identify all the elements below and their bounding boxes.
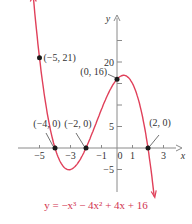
x-tick-label: 1: [130, 150, 135, 161]
data-point: [115, 77, 120, 82]
curve: [30, 0, 156, 197]
point-label: (−5, 21): [44, 52, 76, 64]
y-tick-label: −5: [103, 164, 114, 175]
point-label: (−4, 0): [33, 118, 60, 130]
labeled-points: (−5, 21)(0, 16)(−4, 0)(−2, 0)(2, 0): [33, 52, 170, 150]
point-label: (2, 0): [149, 117, 171, 129]
axes: xy−5−3−1013205−5: [18, 13, 186, 192]
leader-line: [108, 74, 116, 78]
point-label: (0, 16): [80, 66, 107, 78]
x-axis-label: x: [180, 150, 186, 161]
y-tick-label: 5: [109, 121, 114, 132]
y-axis-label: y: [105, 13, 111, 24]
function-curve: [33, 0, 154, 196]
x-tick-label: −1: [96, 150, 107, 161]
x-tick-label: −3: [65, 150, 76, 161]
x-tick-label: 3: [161, 150, 166, 161]
cubic-function-graph: xy−5−3−1013205−5 (−5, 21)(0, 16)(−4, 0)(…: [0, 0, 192, 224]
data-point: [37, 55, 42, 60]
data-point: [53, 146, 58, 151]
equation-label: y = −x³ − 4x² + 4x + 16: [44, 199, 148, 211]
point-label: (−2, 0): [64, 118, 91, 130]
leader-line: [76, 133, 84, 146]
x-tick-label: 0: [118, 150, 123, 161]
data-point: [84, 146, 89, 151]
leader-line: [150, 135, 159, 146]
x-tick-label: −5: [34, 150, 45, 161]
data-point: [146, 146, 151, 151]
